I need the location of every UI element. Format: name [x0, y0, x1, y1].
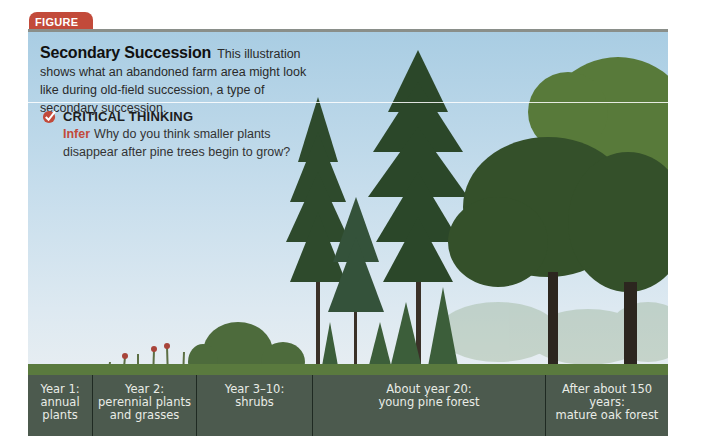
- stage-line: After about 150 years:: [546, 383, 668, 409]
- critical-thinking-box: CRITICAL THINKING InferWhy do you think …: [42, 109, 312, 161]
- stage-label-year-1: Year 1: annual plants: [28, 375, 93, 436]
- checkmark-icon: [42, 109, 57, 124]
- caption-divider: [28, 102, 668, 103]
- stage-label-year-150: After about 150 years: mature oak forest: [546, 375, 668, 436]
- stage-label-year-3-10: Year 3–10: shrubs: [197, 375, 313, 436]
- flowers: [122, 343, 170, 359]
- stage-line: and grasses: [93, 409, 196, 422]
- stage-line: mature oak forest: [546, 409, 668, 422]
- stage-line: shrubs: [197, 396, 312, 409]
- critical-thinking-heading: CRITICAL THINKING: [63, 109, 193, 124]
- figure-caption: Secondary SuccessionThis illustration sh…: [40, 44, 310, 117]
- stage-line: plants: [28, 409, 92, 422]
- figure-illustration: Secondary SuccessionThis illustration sh…: [28, 29, 668, 378]
- stage-line: young pine forest: [313, 396, 545, 409]
- stage-label-bar: Year 1: annual plants Year 2: perennial …: [28, 375, 668, 436]
- figure-title: Secondary Succession: [40, 44, 211, 61]
- stage-label-year-2: Year 2: perennial plants and grasses: [93, 375, 197, 436]
- stage-label-year-20: About year 20: young pine forest: [313, 375, 546, 436]
- infer-question: Why do you think smaller plants disappea…: [63, 127, 290, 159]
- infer-label: Infer: [63, 127, 90, 141]
